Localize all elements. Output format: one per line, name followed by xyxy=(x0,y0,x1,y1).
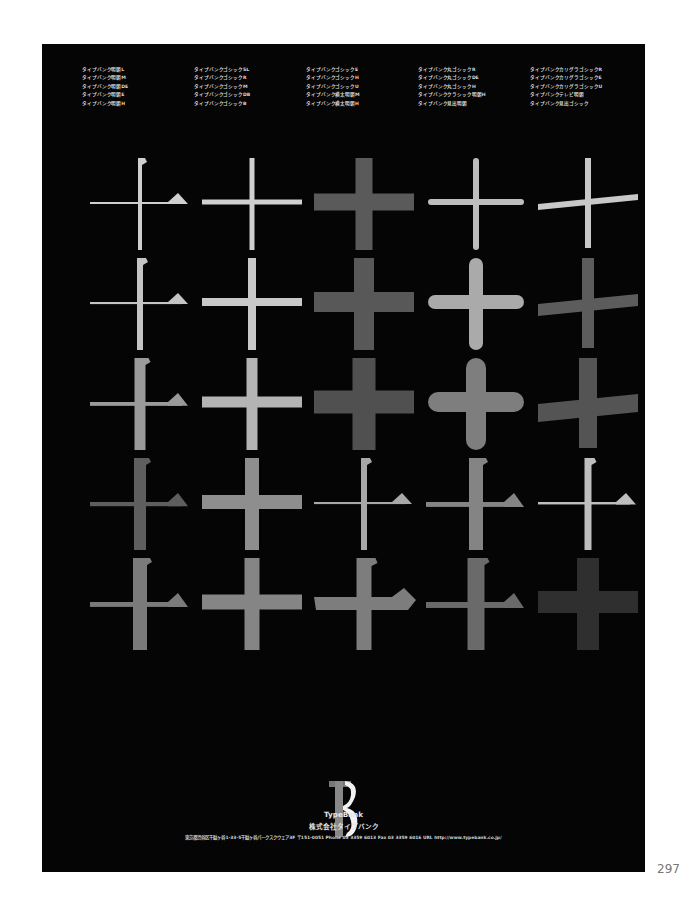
company-name: 株式会社タイプバンク xyxy=(42,821,645,831)
glyph-ju-icon xyxy=(196,354,308,454)
glyph-ju-icon xyxy=(196,154,308,254)
glyph-ju-icon xyxy=(532,254,644,354)
font-name: タイプバンククラシック明朝H xyxy=(418,91,530,99)
font-names-column-mincho: タイプバンク明朝L タイプバンク明朝M タイプバンク明朝DE タイプバンク明朝E… xyxy=(82,66,194,108)
glyph-specimen xyxy=(308,554,420,654)
glyph-specimen xyxy=(84,554,196,654)
font-name: タイプバンク明朝L xyxy=(82,66,194,74)
font-name: タイプバンクゴシックU xyxy=(306,83,418,91)
glyph-specimen xyxy=(84,454,196,554)
glyph-specimen xyxy=(532,154,644,254)
glyph-specimen xyxy=(196,154,308,254)
page-number: 297 xyxy=(657,862,680,876)
glyph-ju-icon xyxy=(308,554,420,654)
glyph-specimen xyxy=(308,454,420,554)
glyph-specimen xyxy=(420,554,532,654)
font-name: タイプバンク見出明朝 xyxy=(418,100,530,108)
glyph-specimen xyxy=(196,554,308,654)
glyph-specimen xyxy=(420,254,532,354)
font-name: タイプバンク明朝H xyxy=(82,100,194,108)
glyph-specimen xyxy=(420,354,532,454)
glyph-specimen xyxy=(420,154,532,254)
font-name: タイプバンクゴシックM xyxy=(194,83,306,91)
glyph-ju-icon xyxy=(196,554,308,654)
glyph-ju-icon xyxy=(84,454,196,554)
glyph-ju-icon xyxy=(420,454,532,554)
glyph-row xyxy=(84,354,644,454)
glyph-row xyxy=(84,254,644,354)
font-name: タイプバンクカリグラゴシックU xyxy=(530,83,642,91)
glyph-ju-icon xyxy=(196,254,308,354)
glyph-ju-icon xyxy=(308,454,420,554)
font-name: タイプバンクゴシックDB xyxy=(194,91,306,99)
glyph-specimen xyxy=(532,554,644,654)
glyph-specimen xyxy=(532,354,644,454)
font-name: タイプバンクゴシックB xyxy=(194,100,306,108)
font-name: タイプバンクカリグラゴシックR xyxy=(530,66,642,74)
font-name: タイプバンク明朝E xyxy=(82,91,194,99)
glyph-specimen xyxy=(196,354,308,454)
font-names-column-gothic: タイプバンクゴシックSL タイプバンクゴシックR タイプバンクゴシックM タイプ… xyxy=(194,66,306,108)
glyph-ju-icon xyxy=(420,154,532,254)
glyph-ju-icon xyxy=(196,454,308,554)
font-names-column-round: タイプバンク丸ゴシックR タイプバンク丸ゴシックDE タイプバンク丸ゴシックH … xyxy=(418,66,530,108)
font-name: タイプバンクゴシックSL xyxy=(194,66,306,74)
font-name: タイプバンクカリグラゴシックE xyxy=(530,74,642,82)
glyph-ju-icon xyxy=(308,254,420,354)
glyph-ju-icon xyxy=(420,354,532,454)
company-address: 東京都渋谷区千駄ヶ谷1-33-5千駄ヶ谷パークスクウェア3F 〒151-0051… xyxy=(42,834,645,840)
font-name: タイプバンク横太明朝H xyxy=(306,100,418,108)
glyph-specimen-grid xyxy=(84,154,644,654)
glyph-ju-icon xyxy=(84,254,196,354)
font-name: タイプバンクゴシックH xyxy=(306,74,418,82)
glyph-ju-icon xyxy=(420,254,532,354)
font-name: タイプバンク明朝DE xyxy=(82,83,194,91)
glyph-ju-icon xyxy=(84,154,196,254)
glyph-specimen xyxy=(420,454,532,554)
glyph-row xyxy=(84,454,644,554)
font-name: タイプバンク明朝M xyxy=(82,74,194,82)
font-name-list: タイプバンク明朝L タイプバンク明朝M タイプバンク明朝DE タイプバンク明朝E… xyxy=(82,66,642,108)
glyph-specimen xyxy=(84,254,196,354)
glyph-ju-icon xyxy=(420,554,532,654)
advertisement-panel: タイプバンク明朝L タイプバンク明朝M タイプバンク明朝DE タイプバンク明朝E… xyxy=(42,44,645,872)
glyph-row xyxy=(84,554,644,654)
glyph-ju-icon xyxy=(532,154,644,254)
glyph-ju-icon xyxy=(532,354,644,454)
glyph-ju-icon xyxy=(308,354,420,454)
font-name: タイプバンク丸ゴシックR xyxy=(418,66,530,74)
glyph-specimen xyxy=(308,254,420,354)
font-name: タイプバンク横太明朝M xyxy=(306,91,418,99)
font-names-column-gothic-heavy: タイプバンクゴシックE タイプバンクゴシックH タイプバンクゴシックU タイプバ… xyxy=(306,66,418,108)
glyph-specimen xyxy=(308,154,420,254)
font-name: タイプバンク見出ゴシック xyxy=(530,100,642,108)
font-name: タイプバンクゴシックE xyxy=(306,66,418,74)
glyph-specimen xyxy=(196,254,308,354)
glyph-ju-icon xyxy=(308,154,420,254)
glyph-ju-icon xyxy=(84,554,196,654)
glyph-specimen xyxy=(532,454,644,554)
font-name: タイプバンクゴシックR xyxy=(194,74,306,82)
glyph-ju-icon xyxy=(532,554,644,654)
brand-name: TypeBank xyxy=(42,810,645,819)
glyph-specimen xyxy=(196,454,308,554)
glyph-specimen xyxy=(532,254,644,354)
font-names-column-calligraphy: タイプバンクカリグラゴシックR タイプバンクカリグラゴシックE タイプバンクカリ… xyxy=(530,66,642,108)
font-name: タイプバンクテレビ明朝 xyxy=(530,91,642,99)
font-name: タイプバンク丸ゴシックH xyxy=(418,83,530,91)
glyph-specimen xyxy=(308,354,420,454)
glyph-ju-icon xyxy=(84,354,196,454)
glyph-specimen xyxy=(84,154,196,254)
glyph-specimen xyxy=(84,354,196,454)
font-name: タイプバンク丸ゴシックDE xyxy=(418,74,530,82)
glyph-row xyxy=(84,154,644,254)
glyph-ju-icon xyxy=(532,454,644,554)
